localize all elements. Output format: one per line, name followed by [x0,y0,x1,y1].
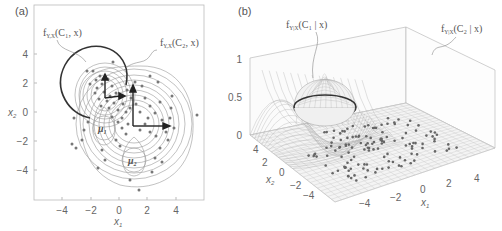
xtick: 4 [173,205,179,216]
ztick: 0.5 [228,92,242,103]
annotation-c1-joint: fY,X(C₁, x) [43,27,82,39]
panel-a-xlabel: x1 [113,216,122,228]
ytick: −4 [17,165,29,176]
x2tick: 4 [253,144,259,155]
xtick: 2 [144,205,150,216]
panel-b-ylabel: x2 [265,174,275,186]
panel-a-label: (a) [15,5,28,17]
ztick: 0 [236,130,242,141]
panel-a-ylabel: x2 [7,107,17,119]
x1tick: 0 [420,184,426,195]
ytick: 4 [22,49,28,60]
xtick: −4 [56,205,68,216]
xtick: 0 [116,205,122,216]
x1tick: 2 [446,178,452,189]
annotation-c1-posterior: fY|X(C₁ | x) [286,19,327,31]
leader-c1 [57,40,86,62]
xtick: −2 [85,205,97,216]
panel-a: (a) 4 2 0 −2 −4 x2 −4 −2 0 2 4 [7,5,204,228]
x2tick: 2 [262,157,268,168]
x1tick: −4 [359,198,371,209]
x1tick: 4 [474,173,480,184]
ytick: 0 [22,107,28,118]
annotation-c2-posterior: fY|X(C₂ | x) [441,23,482,35]
decision-arc [61,46,127,118]
panel-b: (b) 1 0.5 0 4 2 0 −2 −4 x2 −4 [228,5,495,209]
x1tick: −2 [390,192,402,203]
ytick: 2 [22,78,28,89]
ztick: 1 [236,54,242,65]
x2tick: −2 [290,180,302,191]
panel-b-xlabel: x1 [420,197,429,209]
annotation-c2-joint: fY,X(C₂, x) [160,37,199,49]
ytick: −2 [17,136,29,147]
mu1-label: μ1 [97,123,107,135]
mu2-label: μ2 [127,155,137,167]
x2tick: −4 [303,190,315,201]
panel-b-label: (b) [238,5,251,17]
figure: (a) 4 2 0 −2 −4 x2 −4 −2 0 2 4 [0,0,502,231]
x2tick: 0 [279,167,285,178]
